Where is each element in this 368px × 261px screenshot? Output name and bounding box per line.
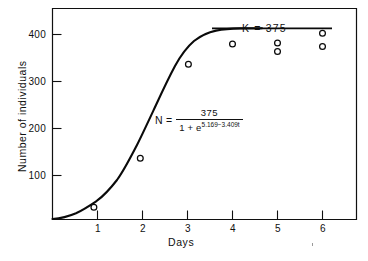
y-tick-marks — [53, 35, 62, 176]
x-tick-label-5: 5 — [269, 223, 287, 234]
logistic-equation-annotation: N = 375 1 + e5.169−3.409t — [155, 108, 243, 132]
data-point — [320, 30, 326, 36]
data-point — [275, 49, 281, 55]
data-point — [137, 155, 143, 161]
data-point — [91, 204, 97, 210]
x-tick-label-3: 3 — [179, 223, 197, 234]
y-axis-title: Number of individuals — [16, 61, 28, 172]
data-point — [230, 41, 236, 47]
equation-denominator-exponent: 5.169−3.409t — [202, 121, 240, 128]
x-tick-label-1: 1 — [89, 223, 107, 234]
equation-denominator-base: 1 + e — [179, 122, 201, 133]
x-axis-title: Days — [168, 236, 194, 248]
carrying-capacity-annotation: K = 375 — [242, 22, 287, 34]
scan-artifact-speck — [312, 243, 313, 246]
x-tick-marks — [98, 211, 323, 220]
equation-equals-sign: = — [166, 114, 172, 126]
equation-fraction: 375 1 + e5.169−3.409t — [176, 108, 243, 132]
data-point — [320, 44, 326, 50]
x-tick-label-2: 2 — [134, 223, 152, 234]
equation-variable: N — [155, 114, 163, 126]
x-tick-label-4: 4 — [224, 223, 242, 234]
data-point — [186, 61, 192, 67]
x-tick-label-6: 6 — [314, 223, 332, 234]
equation-denominator: 1 + e5.169−3.409t — [176, 120, 243, 133]
logistic-growth-figure: 400 300 200 100 1 2 3 4 5 6 Number of in… — [0, 0, 368, 261]
y-tick-label-400: 400 — [12, 29, 46, 40]
data-point — [275, 40, 281, 46]
equation-numerator: 375 — [195, 108, 224, 119]
